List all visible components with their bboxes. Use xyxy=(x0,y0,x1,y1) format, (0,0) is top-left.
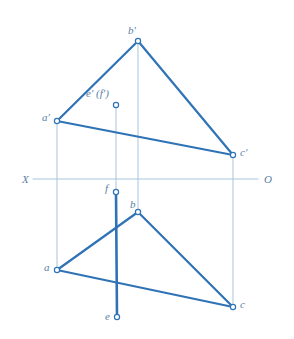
edge-ab xyxy=(57,212,138,270)
point-marker-c xyxy=(230,304,235,309)
point-marker-b-prime xyxy=(135,38,140,43)
point-label-c: c xyxy=(240,299,245,310)
axis-label-x: X xyxy=(22,174,29,185)
edge-bc xyxy=(138,212,233,307)
point-label-f: f xyxy=(105,183,108,194)
edge-bc-prime xyxy=(138,41,233,155)
point-label-c-prime: c′ xyxy=(240,147,247,158)
point-label-a: a xyxy=(44,262,50,273)
point-marker-f xyxy=(113,189,118,194)
point-marker-c-prime xyxy=(230,152,235,157)
edge-ac-prime xyxy=(57,121,233,155)
point-label-a-prime: a′ xyxy=(42,112,50,123)
point-label-e-prime-f-prime: e′ (f′) xyxy=(86,88,109,99)
point-marker-a-prime xyxy=(54,118,59,123)
point-marker-b xyxy=(135,209,140,214)
segment-fe xyxy=(116,192,117,317)
point-marker-ef-prime xyxy=(113,102,118,107)
axis-label-o: O xyxy=(264,174,272,185)
point-marker-e xyxy=(114,314,119,319)
projection-figure xyxy=(0,0,294,339)
point-label-b: b xyxy=(130,199,136,210)
projector-lines-group xyxy=(57,41,233,307)
point-label-e: e xyxy=(105,311,110,322)
point-marker-a xyxy=(54,267,59,272)
point-label-b-prime: b′ xyxy=(128,25,136,36)
edge-ac xyxy=(57,270,233,307)
edge-ab-prime xyxy=(57,41,138,121)
drawing-canvas: X O b′ a′ c′ e′ (f′) b a c f e xyxy=(0,0,294,339)
